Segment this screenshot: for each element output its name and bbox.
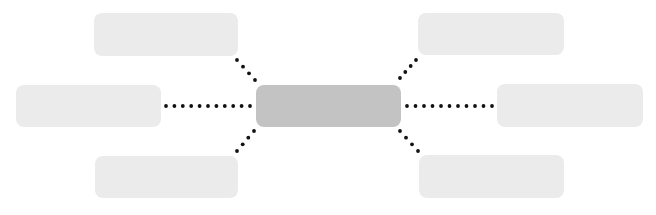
connector-dot bbox=[198, 104, 202, 108]
node-bottom-right bbox=[419, 155, 564, 198]
connector-dot bbox=[241, 142, 245, 146]
connector-dot bbox=[231, 104, 235, 108]
connector-dot bbox=[490, 104, 494, 108]
connector-dot bbox=[246, 136, 250, 140]
connector-dot bbox=[181, 104, 185, 108]
connector-dot bbox=[235, 149, 239, 153]
connector-dot bbox=[253, 78, 257, 82]
node-middle-left bbox=[16, 85, 161, 127]
connector-dot bbox=[206, 104, 210, 108]
connector-dot bbox=[473, 104, 477, 108]
connector-dot bbox=[398, 76, 402, 80]
connector-dot bbox=[409, 64, 413, 68]
center-node bbox=[256, 85, 401, 127]
connector-dot bbox=[241, 65, 245, 69]
connector-to-bottom-right bbox=[398, 129, 420, 153]
connector-dot bbox=[410, 142, 414, 146]
connector-dot bbox=[247, 71, 251, 75]
connector-dot bbox=[173, 104, 177, 108]
connector-dot bbox=[223, 104, 227, 108]
connector-dot bbox=[405, 104, 409, 108]
hub-spoke-diagram bbox=[0, 0, 656, 215]
node-top-right bbox=[418, 13, 564, 55]
connector-dot bbox=[235, 58, 239, 62]
connector-to-top-left bbox=[235, 58, 257, 82]
connector-dot bbox=[456, 104, 460, 108]
connector-dot bbox=[252, 129, 256, 133]
node-bottom-left bbox=[95, 156, 238, 198]
connector-dot bbox=[422, 104, 426, 108]
node-middle-right bbox=[497, 84, 643, 127]
connector-dot bbox=[465, 104, 469, 108]
connector-dot bbox=[482, 104, 486, 108]
connector-dot bbox=[403, 70, 407, 74]
connector-dot bbox=[189, 104, 193, 108]
connector-to-middle-right bbox=[405, 104, 494, 108]
connector-dot bbox=[248, 104, 252, 108]
connector-dot bbox=[398, 129, 402, 133]
connector-dot bbox=[448, 104, 452, 108]
connector-dot bbox=[431, 104, 435, 108]
connector-to-middle-left bbox=[164, 104, 252, 108]
connector-dot bbox=[439, 104, 443, 108]
connector-dot bbox=[414, 58, 418, 62]
connector-dot bbox=[414, 104, 418, 108]
connector-dot bbox=[240, 104, 244, 108]
connector-to-top-right bbox=[398, 58, 418, 80]
connector-to-bottom-left bbox=[235, 129, 256, 153]
connector-dot bbox=[404, 136, 408, 140]
connector-dot bbox=[416, 149, 420, 153]
connector-dot bbox=[215, 104, 219, 108]
connector-dot bbox=[164, 104, 168, 108]
node-top-left bbox=[94, 13, 238, 56]
